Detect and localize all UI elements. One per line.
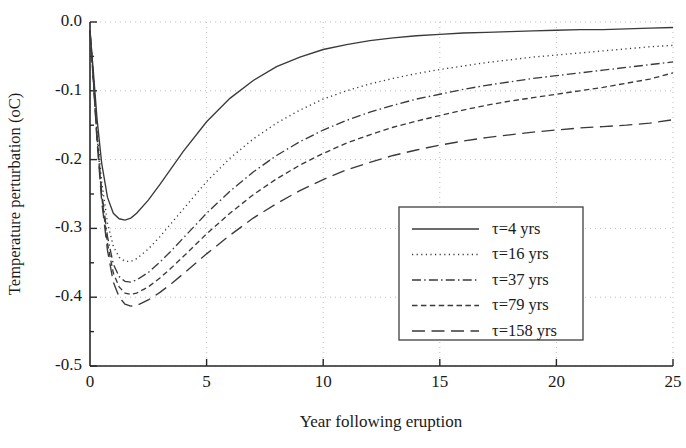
x-axis-title: Year following eruption bbox=[300, 412, 463, 431]
y-tick-label: -0.1 bbox=[28, 80, 82, 100]
x-tick-label: 10 bbox=[303, 372, 343, 392]
legend-label: τ=158 yrs bbox=[492, 321, 557, 340]
x-tick-label: 15 bbox=[420, 372, 460, 392]
legend: τ=4 yrsτ=16 yrsτ=37 yrsτ=79 yrsτ=158 yrs bbox=[399, 207, 583, 340]
figure-container: Year following eruption Temperature pert… bbox=[0, 0, 686, 448]
legend-label: τ=37 yrs bbox=[492, 270, 549, 289]
legend-label: τ=79 yrs bbox=[492, 295, 549, 314]
legend-label: τ=4 yrs bbox=[492, 219, 540, 238]
x-tick-label: 25 bbox=[653, 372, 686, 392]
y-tick-label: -0.3 bbox=[28, 217, 82, 237]
y-tick-label: -0.5 bbox=[28, 355, 82, 375]
y-tick-label: 0.0 bbox=[28, 11, 82, 31]
y-axis-title: Temperature perturbation (oC) bbox=[5, 93, 24, 295]
x-tick-label: 0 bbox=[70, 372, 110, 392]
x-tick-label: 5 bbox=[187, 372, 227, 392]
x-tick-label: 20 bbox=[536, 372, 576, 392]
y-tick-label: -0.2 bbox=[28, 149, 82, 169]
legend-label: τ=16 yrs bbox=[492, 244, 549, 263]
y-tick-label: -0.4 bbox=[28, 286, 82, 306]
